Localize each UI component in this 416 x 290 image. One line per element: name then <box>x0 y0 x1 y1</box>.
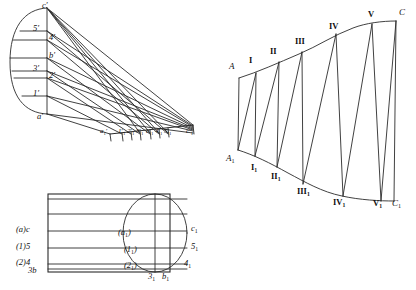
generator-4-to-4 <box>47 40 159 134</box>
label-plan-11: (11) <box>124 245 137 254</box>
label-4-prime: 4′ <box>49 33 55 42</box>
label-dev-IV: IV <box>329 22 338 31</box>
label-a1-prime: a1′ <box>100 128 107 135</box>
label-plan-21: (21) <box>124 261 137 270</box>
development-seam-right <box>394 21 396 201</box>
development-generator-I <box>255 73 256 156</box>
label-plan-b1: b1 <box>162 272 169 281</box>
development-generator-III <box>302 52 303 184</box>
figure-drawing-canvas <box>0 0 416 290</box>
label-dev-A: A <box>229 62 235 71</box>
development-generator-V <box>372 24 381 201</box>
label-plan-41: 41 <box>184 259 191 268</box>
label-b-prime: b′ <box>49 51 55 60</box>
label-dev-IV1: IV1 <box>333 198 345 207</box>
label-2-1-prime: 2′1 <box>127 128 134 135</box>
geometry-figure: c′ 5′ 4′ b′ 3′ 2′ 1′ a′ a1′ 1′1 2′1 3′1 … <box>0 0 416 290</box>
label-plan-a1: (a1) <box>118 228 131 237</box>
plan-outer-rect <box>48 194 170 272</box>
development-generator-II <box>277 62 279 167</box>
label-5-1-prime: 5′1 <box>164 128 171 135</box>
development-seam-left <box>238 78 239 150</box>
label-4-1-prime: 4′1 <box>155 128 162 135</box>
development-generator-IV <box>336 34 343 196</box>
label-dev-C1: C1 <box>392 199 401 208</box>
label-dev-V: V <box>368 10 374 19</box>
label-2-prime: 2′ <box>49 71 55 80</box>
development-diagonal-III1-IV <box>303 34 336 184</box>
label-3-prime: 3′ <box>33 64 39 73</box>
generator-c-to-3 <box>47 8 140 133</box>
development-diagonal-IV1-V <box>343 24 372 196</box>
label-3-1-prime: 3′1 <box>136 128 143 135</box>
label-b-1-prime: b′1 <box>146 128 153 135</box>
label-dev-I: I <box>249 56 252 65</box>
generator-2-to-2 <box>47 78 131 134</box>
label-dev-A1: A1 <box>226 154 235 163</box>
label-c-prime: c′ <box>42 1 48 10</box>
label-1-1-prime: 1′1 <box>118 128 125 135</box>
base-tick-a1 <box>110 134 111 141</box>
front-view-ellipse-arc <box>10 8 47 114</box>
label-c-1-prime: c′1 <box>186 128 193 135</box>
label-dev-II: II <box>270 47 277 56</box>
label-dev-V1: V1 <box>373 199 382 208</box>
generator-c-to-b <box>47 8 150 133</box>
label-5-prime: 5′ <box>33 24 39 33</box>
development-group <box>238 21 396 201</box>
label-dev-I1: I1 <box>251 163 257 172</box>
label-plan-3b: 3b <box>28 266 37 275</box>
label-plan-31: 31 <box>148 272 155 281</box>
development-diagonal-V1-C <box>381 21 396 201</box>
label-plan-c1: c1 <box>191 224 198 233</box>
label-a-prime: a′ <box>37 112 43 121</box>
label-dev-C: C <box>399 8 405 17</box>
label-dev-III: III <box>295 37 305 46</box>
generator-1-to-1 <box>47 96 122 134</box>
generator-c-to-5 <box>47 8 168 133</box>
label-dev-III1: III1 <box>297 187 310 196</box>
label-plan-51: 51 <box>191 242 198 251</box>
development-diagonal-I1-II <box>255 62 279 156</box>
label-plan-ac: (a)c <box>16 225 30 234</box>
label-dev-II1: II1 <box>271 172 281 181</box>
label-plan-15: (1)5 <box>16 242 30 251</box>
development-bottom-curve <box>238 150 394 201</box>
development-diagonal-II1-III <box>277 52 302 167</box>
development-diagonal-A1-I <box>238 73 256 150</box>
generator-b-to-b <box>47 58 150 134</box>
label-1-prime: 1′ <box>33 89 39 98</box>
